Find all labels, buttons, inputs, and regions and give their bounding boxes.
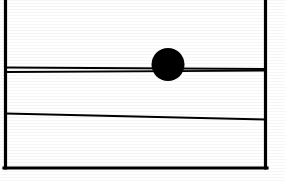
figure-canvas	[0, 0, 285, 181]
figure-svg	[0, 0, 285, 181]
paper-background	[0, 0, 285, 181]
filled-circle-ball	[152, 48, 185, 81]
